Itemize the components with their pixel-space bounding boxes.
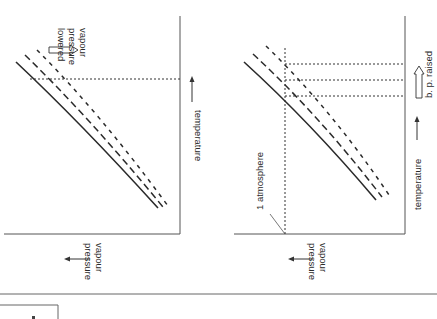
right-curve-concentrated <box>266 46 389 195</box>
one-atmosphere-leader <box>270 214 285 234</box>
diagram-canvas: vapour pressure lowered temperature vapo… <box>0 0 437 319</box>
left-curve-dilute <box>25 55 163 207</box>
left-x-axis-label: temperature <box>193 110 204 161</box>
right-y-axis-label: vapour pressure <box>307 243 329 280</box>
left-temperature-arrow-icon <box>190 76 195 102</box>
right-diagram: 1 atmosphere b. p. raised temperature va… <box>234 16 434 280</box>
left-diagram: vapour pressure lowered temperature vapo… <box>4 16 204 280</box>
left-curve-solvent <box>16 62 158 208</box>
right-temperature-arrow-icon <box>415 116 420 140</box>
right-curve-dilute <box>253 54 382 197</box>
partial-frame <box>0 305 58 319</box>
one-atmosphere-label: 1 atmosphere <box>254 152 265 210</box>
left-y-axis-label: vapour pressure <box>83 243 105 280</box>
bp-raised-label: b. p. raised <box>423 51 434 98</box>
left-annotation: vapour pressure lowered <box>56 28 89 68</box>
right-x-axis-label: temperature <box>412 159 423 210</box>
left-curve-concentrated <box>37 50 168 206</box>
